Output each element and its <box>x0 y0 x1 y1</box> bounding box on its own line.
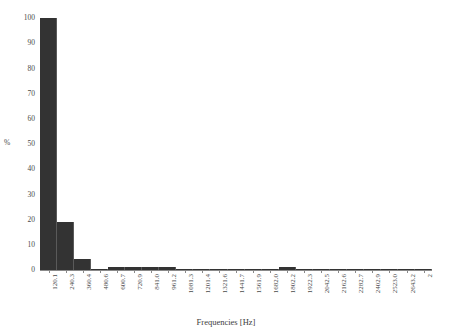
histogram-figure: % 1009080706050403020100 120.1240.3360.4… <box>0 0 452 335</box>
x-axis-tick: 961.2 <box>159 270 176 318</box>
x-tick-mark <box>66 270 67 273</box>
x-axis-tick: 1922.3 <box>296 270 313 318</box>
x-tick-mark <box>270 270 271 273</box>
y-axis-tick-label: 70 <box>28 90 41 98</box>
x-tick-mark <box>185 270 186 273</box>
x-tick-mark <box>168 270 169 273</box>
y-axis-tick-label: 10 <box>28 241 41 249</box>
x-tick-mark <box>321 270 322 273</box>
x-tick-mark <box>151 270 152 273</box>
x-axis-tick: 1081.3 <box>176 270 193 318</box>
x-tick-mark <box>202 270 203 273</box>
bar-series <box>40 18 432 270</box>
x-axis-tick: 1321.6 <box>210 270 227 318</box>
bar <box>57 222 74 270</box>
x-axis-tick: 1441.7 <box>228 270 245 318</box>
x-tick-mark <box>236 270 237 273</box>
y-axis-ticks: 1009080706050403020100 <box>0 18 40 270</box>
x-tick-mark <box>253 270 254 273</box>
x-axis-ticks: 120.1240.3360.4480.6600.7720.9841.0961.2… <box>40 270 432 318</box>
x-axis-tick: 841.0 <box>142 270 159 318</box>
x-axis-tick: 2402.9 <box>364 270 381 318</box>
y-axis-tick-label: 30 <box>28 191 41 199</box>
x-tick-mark <box>287 270 288 273</box>
x-tick-mark <box>304 270 305 273</box>
x-tick-mark <box>49 270 50 273</box>
x-axis-tick: 2643.2 <box>398 270 415 318</box>
x-axis-tick: 1682.0 <box>262 270 279 318</box>
x-tick-mark <box>424 270 425 273</box>
y-axis-tick-label: 100 <box>24 14 40 22</box>
bar <box>74 259 91 270</box>
x-tick-mark <box>338 270 339 273</box>
x-axis-tick: 2042.5 <box>313 270 330 318</box>
plot-area <box>40 18 432 270</box>
bar <box>40 18 57 270</box>
x-tick-mark <box>117 270 118 273</box>
y-axis-tick-label: 0 <box>31 266 40 274</box>
x-axis-tick: 2282.7 <box>347 270 364 318</box>
x-axis-tick: 2523.0 <box>381 270 398 318</box>
y-axis-tick-label: 40 <box>28 165 41 173</box>
x-axis-tick: 1201.4 <box>193 270 210 318</box>
x-tick-mark <box>407 270 408 273</box>
x-axis-tick: 360.4 <box>74 270 91 318</box>
x-axis-tick: 1561.9 <box>245 270 262 318</box>
x-axis-tick: 2 <box>415 270 432 318</box>
x-axis-tick: 120.1 <box>40 270 57 318</box>
y-axis-tick-label: 80 <box>28 65 41 73</box>
x-axis-tick: 720.9 <box>125 270 142 318</box>
x-tick-mark <box>389 270 390 273</box>
x-tick-mark <box>134 270 135 273</box>
y-axis-tick-label: 90 <box>28 39 41 47</box>
x-axis-tick-label: 2 <box>427 274 434 278</box>
x-axis-tick: 2162.6 <box>330 270 347 318</box>
y-axis-tick-label: 60 <box>28 115 41 123</box>
x-tick-mark <box>100 270 101 273</box>
x-axis-tick: 600.7 <box>108 270 125 318</box>
x-axis-tick: 1802.2 <box>279 270 296 318</box>
x-tick-mark <box>355 270 356 273</box>
x-axis-title: Frequencies [Hz] <box>0 318 452 327</box>
y-axis-tick-label: 50 <box>28 140 41 148</box>
x-axis-tick: 240.3 <box>57 270 74 318</box>
x-tick-mark <box>219 270 220 273</box>
x-axis-tick: 480.6 <box>91 270 108 318</box>
x-tick-mark <box>83 270 84 273</box>
y-axis-tick-label: 20 <box>28 216 41 224</box>
x-tick-mark <box>372 270 373 273</box>
